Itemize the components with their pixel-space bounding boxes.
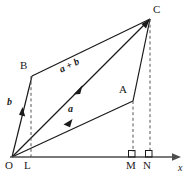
x-axis-arrowhead (172, 153, 181, 161)
right-angle-at-N-icon (146, 151, 153, 158)
vector-parallelogram-figure: O L B A C M N a b a + b x (0, 0, 191, 180)
vertex-label-N: N (143, 160, 151, 171)
vertex-label-M: M (126, 160, 136, 171)
dashed-drop-lines (31, 19, 150, 157)
edge-B-C (32, 19, 150, 76)
vertex-label-B: B (20, 60, 27, 71)
x-axis-label: x (178, 163, 182, 173)
right-angle-at-M-icon (129, 151, 136, 158)
vector-label-a: a (68, 104, 73, 114)
edge-O-B (12, 76, 32, 157)
vertex-label-A: A (119, 84, 127, 95)
right-angle-marks (129, 151, 153, 158)
vector-label-b: b (7, 97, 12, 107)
arrowhead-vector-a-plus-b (74, 85, 83, 95)
vertex-label-O: O (5, 160, 13, 171)
figure-canvas (0, 0, 191, 180)
vertex-label-L: L (24, 160, 31, 171)
x-axis-group (10, 153, 181, 161)
arrowhead-vector-a (64, 119, 73, 127)
edge-A-C (133, 19, 150, 101)
vertex-label-C: C (153, 4, 160, 15)
